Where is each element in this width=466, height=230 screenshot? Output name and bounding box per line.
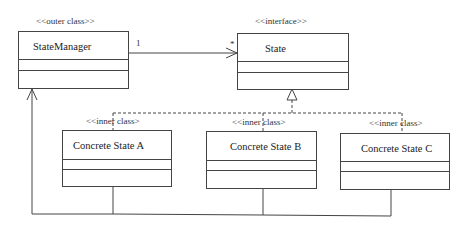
methods-divider: [341, 171, 449, 172]
class-box-concrete-state-c[interactable]: Concrete State C: [340, 133, 450, 190]
attributes-divider: [341, 161, 449, 162]
stereotype-inner-class-b: <<inner class>: [232, 117, 285, 127]
methods-divider: [19, 70, 128, 71]
class-box-state[interactable]: State: [237, 33, 349, 90]
class-box-state-manager[interactable]: StateManager: [18, 31, 129, 89]
stereotype-inner-class-a: <<inner class>: [86, 116, 139, 126]
class-name: Concrete State A: [73, 140, 144, 152]
stereotype-outer-class: <<outer class>>: [36, 16, 95, 26]
attributes-divider: [63, 159, 171, 160]
class-name: State: [265, 43, 286, 55]
hollow-triangle-icon: [287, 89, 297, 100]
stereotype-interface: <<interface>>: [255, 16, 307, 26]
uml-diagram: <<outer class>> StateManager 1 * <<inter…: [0, 0, 466, 230]
methods-divider: [238, 72, 348, 73]
multiplicity-one: 1: [136, 38, 141, 48]
multiplicity-many: *: [230, 39, 235, 49]
class-box-concrete-state-a[interactable]: Concrete State A: [62, 130, 172, 187]
stereotype-inner-class-c: <<inner class>: [369, 118, 422, 128]
methods-divider: [207, 170, 316, 171]
class-name: Concrete State C: [361, 143, 432, 155]
methods-divider: [63, 169, 171, 170]
class-name: StateManager: [33, 41, 91, 53]
attributes-divider: [19, 59, 128, 60]
class-name: Concrete State B: [230, 141, 301, 153]
attributes-divider: [207, 160, 316, 161]
class-box-concrete-state-b[interactable]: Concrete State B: [206, 131, 317, 189]
attributes-divider: [238, 61, 348, 62]
